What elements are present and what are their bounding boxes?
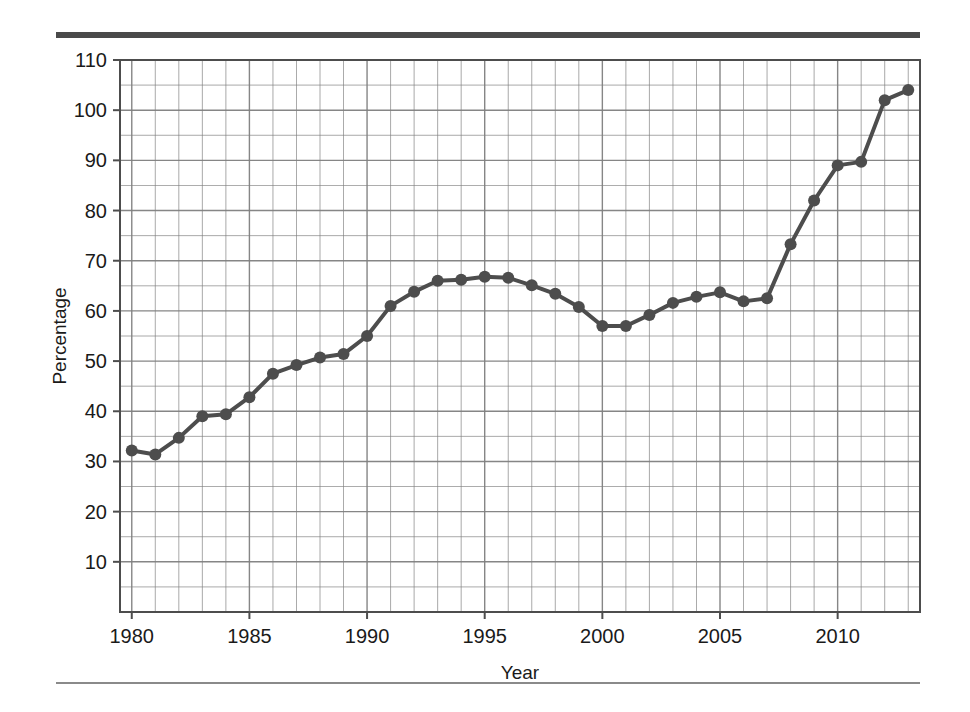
data-point (432, 275, 444, 287)
y-tick-label: 40 (85, 400, 107, 422)
x-tick-label: 2010 (815, 625, 860, 647)
data-point (173, 432, 185, 444)
data-point (385, 300, 397, 312)
y-tick-label: 110 (75, 49, 107, 71)
y-tick-label: 30 (85, 450, 107, 472)
x-axis-ticks (132, 612, 838, 619)
data-point (855, 156, 867, 168)
y-tick-label: 10 (85, 551, 107, 573)
data-point (243, 391, 255, 403)
data-point (196, 410, 208, 422)
data-point (832, 159, 844, 171)
data-point (149, 448, 161, 460)
x-axis-title: Year (501, 662, 540, 683)
data-point (220, 408, 232, 420)
data-point (361, 330, 373, 342)
x-tick-label: 1980 (110, 625, 155, 647)
y-tick-label: 70 (85, 250, 107, 272)
x-tick-label: 1985 (227, 625, 272, 647)
y-tick-label: 20 (85, 501, 107, 523)
data-point (738, 295, 750, 307)
data-point (620, 320, 632, 332)
data-point (879, 94, 891, 106)
data-point (902, 84, 914, 96)
data-point (690, 291, 702, 303)
data-markers (126, 84, 914, 460)
data-point (408, 286, 420, 298)
x-tick-label: 1990 (345, 625, 390, 647)
data-point (455, 274, 467, 286)
data-point (808, 195, 820, 207)
y-axis-title: Percentage (49, 287, 70, 384)
data-point (267, 368, 279, 380)
data-point (502, 272, 514, 284)
data-point (667, 297, 679, 309)
x-tick-label: 2000 (580, 625, 625, 647)
x-tick-label: 1995 (462, 625, 507, 647)
y-tick-label: 100 (74, 99, 107, 121)
data-point (549, 288, 561, 300)
grid-minor (120, 60, 920, 612)
chart-area: 102030405060708090100110 198019851990199… (0, 0, 970, 712)
line-chart: 102030405060708090100110 198019851990199… (0, 0, 970, 712)
x-axis-tick-labels: 1980198519901995200020052010 (110, 625, 860, 647)
data-point (338, 348, 350, 360)
data-point (479, 271, 491, 283)
data-point (526, 279, 538, 291)
data-point (643, 309, 655, 321)
data-point (573, 301, 585, 313)
data-point (314, 352, 326, 364)
y-tick-label: 90 (85, 149, 107, 171)
y-axis-tick-labels: 102030405060708090100110 (74, 49, 107, 573)
y-tick-label: 50 (85, 350, 107, 372)
y-tick-label: 80 (85, 200, 107, 222)
x-tick-label: 2005 (698, 625, 743, 647)
data-point (714, 286, 726, 298)
data-point (126, 444, 138, 456)
data-point (785, 238, 797, 250)
data-point (290, 359, 302, 371)
figure-container: 102030405060708090100110 198019851990199… (0, 0, 970, 712)
y-tick-label: 60 (85, 300, 107, 322)
data-point (596, 320, 608, 332)
y-axis-ticks (113, 60, 120, 562)
data-point (761, 292, 773, 304)
